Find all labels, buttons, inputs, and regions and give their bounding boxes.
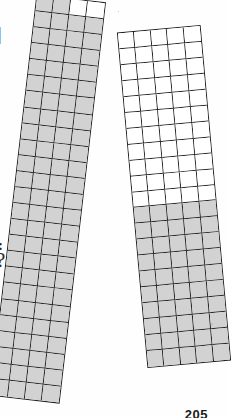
- grid-cell: [140, 94, 158, 111]
- grid-cell: [168, 220, 186, 237]
- grid-cell: [128, 143, 146, 160]
- grid-cell: [21, 123, 40, 141]
- grid-cell: [82, 33, 101, 51]
- grid-cell: [141, 286, 159, 303]
- grid-cell: [30, 43, 49, 61]
- grid-cell: [134, 30, 152, 47]
- grid-cell: [36, 141, 55, 159]
- grid-cell: [122, 80, 140, 97]
- grid-cell: [192, 298, 210, 315]
- grid-cell: [183, 202, 201, 219]
- grid-cell: [60, 79, 79, 97]
- grid-cell: [56, 111, 75, 129]
- grid-cell: [152, 45, 170, 62]
- grid-cell: [171, 75, 189, 92]
- grid-cell: [208, 296, 226, 313]
- grid-cell: [27, 367, 46, 385]
- grid-cell: [79, 65, 98, 83]
- grid-cell: [30, 335, 49, 353]
- grid-cell: [177, 315, 195, 332]
- grid-cell: [40, 255, 59, 273]
- grid-cell: [57, 257, 76, 275]
- grid-cell: [43, 223, 62, 241]
- grid-cell: [176, 123, 194, 140]
- grid-cell: [42, 385, 61, 403]
- grid-cell: [45, 353, 64, 371]
- grid-cell: [49, 175, 68, 193]
- grid-cell: [125, 111, 143, 128]
- grid-cell: [53, 143, 72, 161]
- grid-cell: [8, 235, 27, 253]
- grid-cell: [178, 331, 196, 348]
- grid-cell: [183, 26, 201, 43]
- grid-cell: [10, 365, 29, 383]
- grid-cell: [47, 45, 66, 63]
- grid-cell: [34, 157, 53, 175]
- grid-cell: [54, 127, 73, 145]
- grid-cell: [47, 337, 66, 355]
- grid-cell: [77, 81, 96, 99]
- grid-cell: [139, 78, 157, 95]
- grid-cell: [38, 125, 57, 143]
- grid-cell: [134, 207, 152, 224]
- grid-cell: [62, 209, 81, 227]
- grid-cell: [143, 126, 161, 143]
- grid-cell: [192, 121, 210, 138]
- grid-cell: [162, 156, 180, 173]
- grid-cell: [66, 31, 85, 49]
- grid-cell: [159, 124, 177, 141]
- grid-cell: [138, 254, 156, 271]
- grid-cell: [15, 317, 34, 335]
- grid-cell: [185, 42, 203, 59]
- right-grid-strip: [117, 25, 231, 368]
- grid-cell: [30, 189, 49, 207]
- grid-cell: [12, 349, 31, 367]
- grid-cell: [159, 301, 177, 318]
- grid-cell: [68, 161, 87, 179]
- grid-cell: [55, 273, 74, 291]
- grid-cell: [53, 289, 72, 307]
- grid-cell: [135, 223, 153, 240]
- grid-cell: [42, 239, 61, 257]
- grid-cell: [137, 238, 155, 255]
- grid-cell: [191, 105, 209, 122]
- grid-cell: [172, 267, 190, 284]
- grid-cell: [51, 159, 70, 177]
- grid-cell: [156, 269, 174, 286]
- grid-cell: [25, 383, 44, 401]
- grid-cell: [60, 225, 79, 243]
- grid-cell: [127, 127, 145, 144]
- grid-cell: [179, 155, 197, 172]
- grid-cell: [38, 271, 57, 289]
- grid-cell: [75, 97, 94, 115]
- grid-cell: [193, 137, 211, 154]
- grid-cell: [34, 303, 53, 321]
- grid-cell: [49, 29, 68, 47]
- grid-cell: [28, 59, 47, 77]
- grid-cell: [155, 77, 173, 94]
- grid-cell: [49, 321, 68, 339]
- grid-cell: [180, 347, 198, 364]
- grid-cell: [194, 329, 212, 346]
- grid-cell: [45, 207, 64, 225]
- grid-cell: [70, 145, 89, 163]
- grid-cell: [121, 64, 139, 81]
- grid-cell: [13, 187, 32, 205]
- grid-cell: [165, 188, 183, 205]
- grid-cell: [162, 332, 180, 349]
- grid-cell: [66, 177, 85, 195]
- grid-cell: [144, 318, 162, 335]
- grid-cell: [62, 63, 81, 81]
- grid-cell: [164, 172, 182, 189]
- grid-cell: [26, 75, 45, 93]
- grid-cell: [169, 235, 187, 252]
- grid-cell: [189, 266, 207, 283]
- grid-cell: [193, 313, 211, 330]
- grid-cell: [150, 205, 168, 222]
- grid-cell: [147, 350, 165, 367]
- grid-cell: [153, 237, 171, 254]
- grid-cell: [205, 264, 223, 281]
- scan-speckle: [118, 11, 119, 12]
- grid-cell: [23, 253, 42, 271]
